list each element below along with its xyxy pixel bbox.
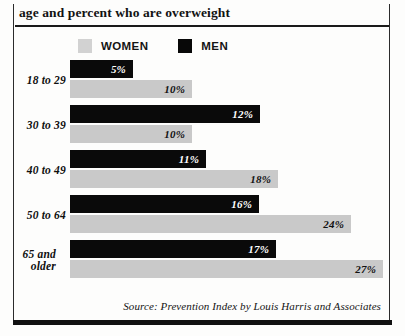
- bar-pair: 12% 10%: [70, 105, 260, 143]
- overweight-by-age-chart: age and percent who are overweight WOMEN…: [0, 0, 405, 336]
- bar-women: 10%: [70, 80, 192, 98]
- bar-value-men: 12%: [232, 108, 253, 120]
- chart-legend: WOMEN MEN: [78, 39, 228, 53]
- bar-pair: 5% 10%: [70, 60, 192, 98]
- bar-value-women: 18%: [250, 173, 271, 185]
- legend-label-men: MEN: [201, 40, 228, 52]
- bar-women: 10%: [70, 125, 192, 143]
- bar-value-men: 17%: [248, 243, 269, 255]
- bar-value-men: 11%: [179, 153, 199, 165]
- bar-pair: 17% 27%: [70, 240, 383, 278]
- chart-title: age and percent who are overweight: [19, 5, 230, 21]
- bar-group: 50 to 64 16% 24%: [0, 195, 405, 240]
- bar-value-men: 16%: [231, 198, 252, 210]
- bottom-rule: [13, 320, 392, 325]
- plot-area: 18 to 29 5% 10% 30 to 39 12% 10%: [0, 60, 405, 288]
- legend-swatch-men-icon: [178, 39, 192, 53]
- bar-value-women: 10%: [164, 128, 185, 140]
- bar-men: 11%: [70, 150, 206, 168]
- bar-group: 18 to 29 5% 10%: [0, 60, 405, 105]
- legend-item-women: WOMEN: [78, 39, 148, 53]
- category-label: 18 to 29: [0, 74, 66, 86]
- bar-group: 30 to 39 12% 10%: [0, 105, 405, 150]
- category-label: 40 to 49: [0, 164, 66, 176]
- source-note: Source: Prevention Index by Louis Harris…: [123, 300, 381, 312]
- legend-item-men: MEN: [178, 39, 228, 53]
- bar-men: 16%: [70, 195, 259, 213]
- category-label: 65 and older: [0, 248, 56, 272]
- legend-swatch-women-icon: [78, 39, 92, 53]
- title-divider: [15, 25, 389, 27]
- bar-value-women: 10%: [164, 83, 185, 95]
- bar-pair: 16% 24%: [70, 195, 351, 233]
- bar-group: 65 and older 17% 27%: [0, 240, 405, 288]
- bar-men: 17%: [70, 240, 276, 258]
- bar-value-men: 5%: [111, 63, 126, 75]
- bar-value-women: 24%: [323, 218, 344, 230]
- bar-men: 5%: [70, 60, 133, 78]
- bar-pair: 11% 18%: [70, 150, 278, 188]
- category-label: 50 to 64: [0, 209, 66, 221]
- bar-value-women: 27%: [355, 263, 376, 275]
- category-label: 30 to 39: [0, 119, 66, 131]
- bar-women: 18%: [70, 170, 278, 188]
- bar-men: 12%: [70, 105, 260, 123]
- bar-women: 24%: [70, 215, 351, 233]
- legend-label-women: WOMEN: [101, 40, 148, 52]
- bar-women: 27%: [70, 260, 383, 278]
- bar-group: 40 to 49 11% 18%: [0, 150, 405, 195]
